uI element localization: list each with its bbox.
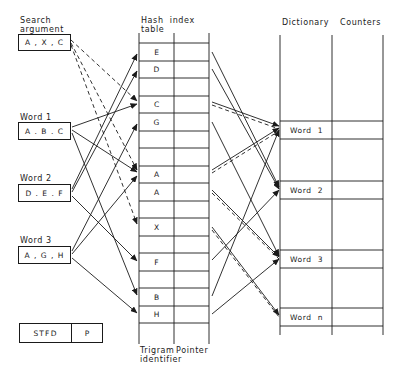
- dictionary-entry: Word 1: [290, 126, 323, 135]
- hash-row-trigram: G: [139, 118, 174, 127]
- word2-label: Word 2: [20, 174, 52, 183]
- search-argument-label-line1: Search: [20, 16, 64, 25]
- hash-table-label-line1: Hash index: [141, 16, 195, 25]
- hash-row-trigram: A: [139, 188, 174, 197]
- trigram-label-line2: identifier: [140, 355, 182, 364]
- search-argument-label-line2: argument: [20, 25, 64, 34]
- search-argument-label: Search argument: [20, 16, 64, 34]
- p-cell: P: [72, 324, 102, 342]
- word1-box: A . B . C: [18, 122, 71, 140]
- hash-row-trigram: F: [139, 258, 174, 267]
- pointer-label: Pointer: [176, 346, 208, 355]
- word3-box: A , G , H: [18, 246, 71, 264]
- counters-label: Counters: [340, 18, 381, 27]
- dictionary-entry: Word n: [290, 313, 323, 322]
- dictionary-entry: Word 3: [290, 255, 323, 264]
- hash-row-trigram: A: [139, 170, 174, 179]
- hash-row-trigram: C: [139, 100, 174, 109]
- stfd-cell: STFD: [20, 324, 72, 342]
- hash-row-trigram: X: [139, 223, 174, 232]
- word3-label: Word 3: [20, 236, 52, 245]
- dictionary-label: Dictionary: [282, 18, 329, 27]
- dictionary-entry: Word 2: [290, 186, 323, 195]
- stfd-record: STFD P: [19, 323, 103, 343]
- hash-index-table-label: Hash index table: [141, 16, 195, 34]
- word1-label: Word 1: [20, 113, 52, 122]
- hash-row-trigram: D: [139, 65, 174, 74]
- hash-row-trigram: E: [139, 48, 174, 57]
- search-argument-box: A , X , C: [18, 34, 71, 51]
- hash-row-trigram: B: [139, 293, 174, 302]
- hash-row-trigram: H: [139, 310, 174, 319]
- hash-table-label-line2: table: [141, 25, 195, 34]
- word2-box: D . E . F: [18, 184, 71, 202]
